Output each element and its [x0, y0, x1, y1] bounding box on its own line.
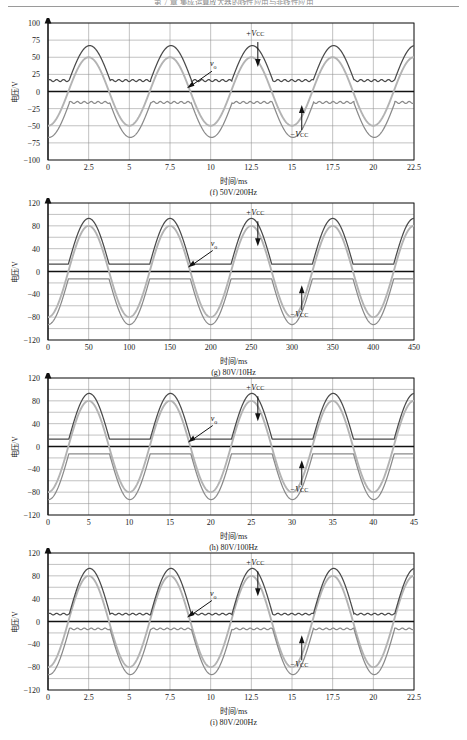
waveform-canvas-h	[0, 373, 467, 517]
annotation-vcc-negative-h: −VCC	[290, 485, 309, 494]
annotation-vo-h: vo	[211, 414, 218, 425]
x-tick-i: 0	[46, 693, 50, 702]
document-page: 第 7 章 集成运算放大器的线性应用与非线性应用 电压/V−100−75−50−…	[0, 0, 467, 740]
x-axis-label-g: 时间/ms	[0, 355, 467, 366]
figure-f: 电压/V−100−75−50−250255075100+VCCvo−VCC02.…	[0, 18, 467, 190]
x-tick-i: 22.5	[407, 693, 421, 702]
x-tick-f: 12.5	[244, 163, 258, 172]
x-tick-f: 20	[369, 163, 377, 172]
x-tick-i: 5	[127, 693, 131, 702]
annotation-vcc-negative-g: −VCC	[290, 310, 309, 319]
figure-h: 电压/V−120−80−4004080120+VCCvo−VCC05101520…	[0, 373, 467, 545]
annotation-vcc-positive-f: +VCC	[246, 29, 265, 38]
x-tick-i: 10	[207, 693, 215, 702]
x-tick-i: 20	[369, 693, 377, 702]
waveform-canvas-g	[0, 198, 467, 342]
annotation-vcc-positive-i: +VCC	[246, 558, 265, 567]
x-axis-label-f: 时间/ms	[0, 175, 467, 186]
annotation-vo-f: vo	[210, 59, 217, 70]
annotation-vcc-negative-f: −VCC	[290, 130, 309, 139]
x-tick-g: 450	[408, 343, 420, 352]
x-tick-h: 5	[87, 518, 91, 527]
x-tick-i: 17.5	[326, 693, 340, 702]
waveform-canvas-f	[0, 18, 467, 162]
x-tick-f: 17.5	[326, 163, 340, 172]
x-tick-g: 50	[85, 343, 93, 352]
x-tick-f: 5	[127, 163, 131, 172]
figure-caption-i: (i) 80V/200Hz	[0, 718, 467, 727]
x-tick-labels-h: 051015202530354045	[0, 518, 467, 529]
x-tick-g: 400	[367, 343, 379, 352]
figure-g: 电压/V−120−80−4004080120+VCCvo−VCC05010015…	[0, 198, 467, 370]
x-tick-f: 2.5	[84, 163, 94, 172]
figure-caption-f: (f) 50V/200Hz	[0, 188, 467, 197]
x-tick-i: 2.5	[84, 693, 94, 702]
x-tick-f: 10	[207, 163, 215, 172]
x-tick-f: 15	[288, 163, 296, 172]
x-tick-labels-g: 050100150200250300350400450	[0, 343, 467, 354]
x-tick-h: 15	[166, 518, 174, 527]
annotation-vcc-positive-h: +VCC	[246, 383, 265, 392]
x-tick-i: 15	[288, 693, 296, 702]
x-axis-label-h: 时间/ms	[0, 530, 467, 541]
header-divider	[8, 6, 459, 7]
x-tick-h: 25	[247, 518, 255, 527]
x-tick-f: 7.5	[165, 163, 175, 172]
x-tick-g: 250	[245, 343, 257, 352]
x-tick-f: 22.5	[407, 163, 421, 172]
x-tick-g: 150	[164, 343, 176, 352]
x-tick-labels-f: 02.557.51012.51517.52022.5	[0, 163, 467, 174]
x-tick-g: 350	[327, 343, 339, 352]
waveform-canvas-i	[0, 548, 467, 692]
x-tick-h: 45	[410, 518, 418, 527]
annotation-vo-g: vo	[211, 239, 218, 250]
x-tick-f: 0	[46, 163, 50, 172]
x-tick-i: 7.5	[165, 693, 175, 702]
page-header: 第 7 章 集成运算放大器的线性应用与非线性应用	[0, 0, 467, 5]
x-tick-h: 35	[329, 518, 337, 527]
x-tick-g: 300	[286, 343, 298, 352]
annotation-vcc-negative-i: −VCC	[290, 660, 309, 669]
x-tick-g: 200	[205, 343, 217, 352]
figure-i: 电压/V−120−80−4004080120+VCCvo−VCC02.557.5…	[0, 548, 467, 720]
x-tick-h: 20	[207, 518, 215, 527]
x-tick-h: 0	[46, 518, 50, 527]
x-tick-g: 100	[123, 343, 135, 352]
annotation-vcc-positive-g: +VCC	[246, 208, 265, 217]
annotation-vo-i: vo	[210, 589, 217, 600]
x-tick-labels-i: 02.557.51012.51517.52022.5	[0, 693, 467, 704]
x-tick-i: 12.5	[244, 693, 258, 702]
x-axis-label-i: 时间/ms	[0, 705, 467, 716]
x-tick-h: 30	[288, 518, 296, 527]
x-tick-h: 10	[125, 518, 133, 527]
x-tick-h: 40	[369, 518, 377, 527]
x-tick-g: 0	[46, 343, 50, 352]
